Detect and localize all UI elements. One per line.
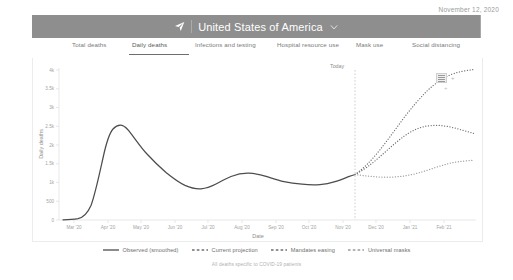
tab-mask-use[interactable]: Mask use	[356, 41, 383, 48]
paper-plane-icon	[174, 21, 185, 32]
x-axis-title: Date	[252, 233, 263, 239]
report-date-text: November 12, 2020	[439, 6, 500, 13]
svg-text:Oct '20: Oct '20	[302, 225, 317, 230]
svg-text:Sep '20: Sep '20	[268, 225, 284, 230]
legend-swatch-dashed-icon	[192, 248, 208, 252]
svg-text:3.5k: 3.5k	[45, 86, 54, 91]
series-current-projection	[355, 125, 474, 174]
y-axis-title: Daily deaths	[38, 129, 44, 159]
tab-infections-and-testing[interactable]: Infections and testing	[195, 41, 256, 48]
tab-hospital-resource-use[interactable]: Hospital resource use	[277, 41, 339, 48]
chart-menu-controls[interactable]: + +	[436, 73, 476, 99]
svg-text:1.5k: 1.5k	[45, 161, 54, 166]
chart-panel: Today 0 500 1k 1.5k 2k 2.5k 3k 3.5k 4k	[32, 58, 483, 242]
plus-icon-right[interactable]: +	[451, 75, 455, 81]
x-axis-ticks: Mar '20 Apr '20 May '20 Jun '20 Jul '20 …	[66, 220, 452, 230]
tab-total-deaths[interactable]: Total deaths	[72, 41, 107, 48]
location-header-bar: United States of America	[32, 15, 481, 38]
svg-text:3k: 3k	[49, 105, 55, 110]
svg-text:Feb '21: Feb '21	[436, 225, 452, 230]
svg-text:Jan '21: Jan '21	[403, 225, 418, 230]
svg-text:Jul '20: Jul '20	[201, 225, 215, 230]
svg-text:Mar '20: Mar '20	[66, 225, 82, 230]
svg-text:Dec '20: Dec '20	[368, 225, 384, 230]
legend-item-current-projection[interactable]: Current projection	[192, 247, 258, 253]
tab-social-distancing[interactable]: Social distancing	[412, 41, 460, 48]
svg-text:0: 0	[51, 218, 54, 223]
svg-text:2k: 2k	[49, 143, 55, 148]
svg-text:Aug '20: Aug '20	[234, 225, 250, 230]
report-date: November 12, 2020	[0, 0, 513, 11]
legend-item-mandates-easing[interactable]: Mandates easing	[271, 247, 335, 253]
header-right-edge	[480, 15, 481, 38]
legend-swatch-solid-icon	[103, 248, 119, 252]
location-selector[interactable]: United States of America	[174, 20, 339, 33]
legend-item-universal-masks[interactable]: Universal masks	[348, 247, 411, 253]
legend-label-current-projection: Current projection	[212, 247, 258, 253]
svg-text:4k: 4k	[49, 68, 55, 73]
active-tab-underline	[129, 54, 189, 55]
location-name: United States of America	[198, 21, 323, 33]
y-axis-ticks: 0 500 1k 1.5k 2k 2.5k 3k 3.5k 4k	[45, 68, 59, 223]
legend-item-observed[interactable]: Observed (smoothed)	[103, 247, 179, 253]
svg-text:May '20: May '20	[133, 225, 149, 230]
legend-label-universal-masks: Universal masks	[368, 247, 411, 253]
chevron-down-icon[interactable]	[329, 22, 339, 32]
legend-label-mandates-easing: Mandates easing	[291, 247, 335, 253]
hamburger-menu-icon[interactable]	[436, 73, 447, 83]
tab-daily-deaths[interactable]: Daily deaths	[132, 41, 167, 48]
svg-text:Jun '20: Jun '20	[168, 225, 183, 230]
legend-swatch-dashed-icon-2	[271, 248, 287, 252]
daily-deaths-plot: 0 500 1k 1.5k 2k 2.5k 3k 3.5k 4k Mar '20…	[33, 58, 482, 241]
svg-text:Nov '20: Nov '20	[335, 225, 351, 230]
plus-icon-below[interactable]: +	[444, 85, 448, 91]
svg-text:Apr '20: Apr '20	[101, 225, 116, 230]
svg-text:2.5k: 2.5k	[45, 124, 54, 129]
series-observed-smoothed	[63, 125, 355, 220]
chart-legend: Observed (smoothed) Current projection M…	[0, 243, 513, 256]
svg-text:500: 500	[46, 199, 54, 204]
legend-label-observed: Observed (smoothed)	[123, 247, 179, 253]
chart-footnote: All deaths specific to COVID-19 patients	[0, 262, 513, 267]
tab-bar: Total deaths Daily deaths Infections and…	[32, 41, 481, 57]
svg-text:1k: 1k	[49, 180, 55, 185]
header-divider	[191, 20, 192, 33]
legend-swatch-dashed-icon-3	[348, 248, 364, 252]
